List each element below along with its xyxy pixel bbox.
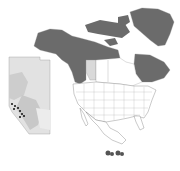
greenland-region [130, 8, 174, 46]
florida [134, 116, 144, 130]
caribbean-islands [106, 151, 125, 157]
alberta-inset [9, 57, 50, 134]
usa-region [73, 82, 156, 122]
north-america-map-svg [0, 0, 180, 171]
distribution-map [0, 0, 180, 171]
island-small [104, 38, 118, 46]
range-east [134, 54, 170, 82]
alberta-province [86, 60, 96, 80]
